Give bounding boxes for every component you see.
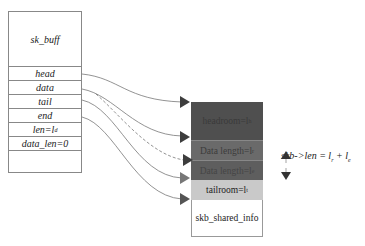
arrows-layer [0,0,365,246]
arrowhead-data-length-2-icon [183,154,193,166]
up-arrow-icon [281,151,291,159]
length-span-indicator [281,151,291,180]
arrowhead-tailroom-icon [180,172,190,184]
down-arrow-icon [281,172,291,180]
arrowhead-data-length-1-icon [180,131,190,143]
arrow-head-to-headroom [82,74,182,102]
arrowhead-headroom-icon [180,96,190,108]
arrowhead-shared-info-icon [180,193,190,205]
arrow-data-to-data-length-2 [96,94,184,160]
